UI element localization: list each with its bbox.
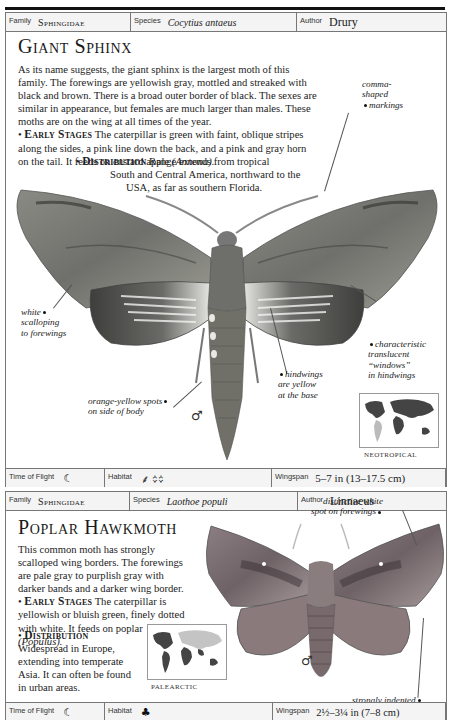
wingspan-label: Wingspan: [275, 472, 308, 481]
range-map-neotropical: [359, 393, 439, 448]
annotation-white-spot: distinctive white spot on forewings: [311, 496, 383, 517]
time-of-flight-label: Time of Flight: [9, 706, 54, 715]
wingspan-cell: Wingspan 5–7 in (13–17.5 cm): [272, 469, 446, 487]
annotation-comma-markings: comma- shaped markings: [362, 79, 403, 110]
classification-row: Family Sphingidae Species Cocytius antae…: [6, 13, 446, 32]
world-map-icon: [148, 625, 226, 679]
species-entry-poplar-hawkmoth: Family Sphingidae Species Laothoe populi…: [5, 491, 447, 720]
family-value: Sphingidae: [38, 17, 85, 28]
family-label: Family: [9, 495, 31, 504]
species-value: Laothoe populi: [167, 496, 228, 507]
annotation-hindwings-yellow: hindwings are yellow at the base: [278, 369, 323, 400]
male-symbol: ♂: [191, 408, 203, 423]
details-row: Time of Flight ☾ Habitat ♣ Wingspan 2½–3…: [6, 702, 446, 720]
intro-paragraph: As its name suggests, the giant sphinx i…: [18, 64, 317, 127]
time-of-flight-cell: Time of Flight ☾: [6, 469, 105, 487]
wingspan-value: 2½–3¼ in (7–8 cm): [316, 707, 399, 718]
page-top-rule: [5, 7, 445, 10]
annotation-windows: characteristic translucent “windows” in …: [368, 339, 426, 380]
species-value: Cocytius antaeus: [168, 17, 237, 28]
habitat-label: Habitat: [108, 472, 132, 481]
intro-paragraph: This common moth has strongly scalloped …: [18, 544, 184, 594]
family-cell: Family Sphingidae: [6, 13, 131, 31]
time-of-flight-label: Time of Flight: [9, 472, 54, 481]
annotation-orange-spots: orange-yellow spots on side of body: [88, 396, 169, 417]
habitat-deciduous-tree-icon: ♣: [141, 706, 151, 719]
poplar-hawkmoth-illustration: [201, 514, 448, 689]
wingspan-value: 5–7 in (13–17.5 cm): [315, 472, 405, 484]
habitat-cell: Habitat ⸙ ᨟᨟: [105, 469, 272, 487]
family-cell: Family Sphingidae: [6, 492, 130, 510]
description-text: As its name suggests, the giant sphinx i…: [18, 63, 318, 168]
range-map-palearctic: [147, 624, 227, 680]
habitat-label: Habitat: [108, 706, 132, 715]
world-map-icon: [360, 394, 438, 447]
map-caption: NEOTROPICAL: [364, 451, 417, 459]
male-symbol: ♂: [301, 653, 313, 668]
distribution-heading: Distribution: [82, 155, 146, 167]
wingspan-cell: Wingspan 2½–3¼ in (7–8 cm): [273, 703, 446, 720]
details-row: Time of Flight ☾ Habitat ⸙ ᨟᨟ Wingspan 5…: [6, 468, 446, 487]
family-value: Sphingidae: [38, 496, 85, 507]
nocturnal-moon-icon: ☾: [63, 472, 73, 485]
author-cell: Author Drury: [297, 13, 446, 31]
species-entry-giant-sphinx: Family Sphingidae Species Cocytius antae…: [5, 12, 447, 487]
distribution-heading: Distribution: [24, 629, 88, 641]
annotation-white-scalloping: white scalloping to forewings: [21, 307, 66, 338]
species-title: Giant Sphinx: [18, 35, 132, 58]
species-label: Species: [134, 16, 161, 25]
early-stages-heading: Early Stages: [24, 128, 92, 140]
habitat-palm-forest-icon: ⸙ ᨟᨟: [141, 471, 165, 486]
nocturnal-moon-icon: ☾: [63, 706, 73, 719]
author-label: Author: [300, 16, 322, 25]
species-label: Species: [133, 495, 160, 504]
time-of-flight-cell: Time of Flight ☾: [6, 703, 105, 720]
habitat-cell: Habitat ♣: [105, 703, 273, 720]
family-label: Family: [9, 16, 31, 25]
author-value: Drury: [329, 15, 358, 30]
map-caption: PALEARCTIC: [151, 683, 198, 691]
species-cell: Species Cocytius antaeus: [131, 13, 297, 31]
wingspan-label: Wingspan: [276, 706, 309, 715]
species-cell: Species Laothoe populi: [130, 492, 298, 510]
distribution-text: • Distribution Widespread in Europe, ext…: [18, 629, 136, 694]
early-stages-heading: Early Stages: [24, 595, 92, 607]
species-title: Poplar Hawkmoth: [18, 516, 177, 539]
